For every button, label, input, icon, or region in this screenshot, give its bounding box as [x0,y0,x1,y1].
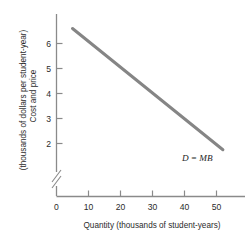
y-axis-label-line1: Cost and price [29,69,38,122]
economics-demand-chart: Cost and price (thousands of dollars per… [0,0,249,242]
x-tick-label-50: 50 [212,202,222,212]
x-tick-label-40: 40 [180,202,190,212]
x-axis-label: Quantity (thousands of student-years) [84,221,221,230]
y-axis-label-line2: (thousands of dollars per student-year) [19,29,28,170]
y-tick-label-4: 4 [46,89,51,99]
x-tick-label-20: 20 [116,202,126,212]
demand-curve-label: D = MB [181,153,213,163]
y-tick-label-2: 2 [46,139,51,149]
y-tick-label-5: 5 [46,64,51,74]
x-tick-label-10: 10 [84,202,94,212]
x-tick-label-30: 30 [148,202,158,212]
y-tick-label-3: 3 [46,114,51,124]
chart-canvas: Cost and price (thousands of dollars per… [0,0,249,242]
x-tick-label-0: 0 [54,202,59,212]
y-axis-ticks [57,44,63,144]
x-axis-ticks [89,191,217,197]
demand-curve-line [73,29,223,150]
y-axis-break-icon [52,170,61,188]
y-tick-label-6: 6 [46,39,51,49]
